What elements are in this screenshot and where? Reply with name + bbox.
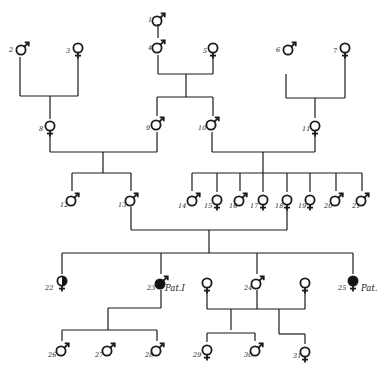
individual-number-label: 22 xyxy=(44,284,53,292)
male-symbol-icon-27 xyxy=(102,343,114,355)
male-symbol-icon-4 xyxy=(152,40,164,52)
individual-number-label: 29 xyxy=(192,351,201,359)
individual-number-label: 30 xyxy=(244,351,252,359)
male-symbol-icon-24 xyxy=(251,276,263,288)
individual-number-label: 25 xyxy=(337,284,346,292)
individual-number-label: 2 xyxy=(8,46,13,54)
pedigree-labels: 1234567891011121314151617181920212223242… xyxy=(8,16,360,360)
individual-number-label: 12 xyxy=(60,201,68,209)
female-symbol-icon-8 xyxy=(45,121,54,136)
individual-number-label: 24 xyxy=(243,284,252,292)
individual-number-label: 26 xyxy=(47,351,56,359)
individual-number-label: 9 xyxy=(146,124,150,132)
individual-number-label: 11 xyxy=(302,125,310,133)
individual-number-label: 27 xyxy=(94,351,104,359)
male-symbol-icon-26 xyxy=(56,343,68,355)
individual-number-label: 7 xyxy=(333,47,338,55)
female-symbol-icon-22 xyxy=(57,276,66,291)
female-symbol-icon xyxy=(202,278,211,293)
individual-number-label: 13 xyxy=(118,201,126,209)
pedigree-diagram: 1234567891011121314151617181920212223242… xyxy=(0,0,384,372)
individual-number-label: 28 xyxy=(144,351,153,359)
male-symbol-icon-6 xyxy=(283,42,295,54)
female-symbol-icon-5 xyxy=(208,43,217,58)
male-symbol-icon-2 xyxy=(16,42,28,54)
male-symbol-icon-14 xyxy=(187,193,199,205)
patient-annotation: Pat.I xyxy=(164,283,186,293)
female-symbol-icon-15 xyxy=(212,195,221,210)
individual-number-label: 6 xyxy=(276,46,280,54)
female-symbol-icon-18 xyxy=(282,195,291,210)
female-symbol-icon xyxy=(300,278,309,293)
female-symbol-icon-17 xyxy=(258,195,267,210)
individual-number-label: 16 xyxy=(229,202,237,210)
male-symbol-icon-1 xyxy=(152,13,164,25)
female-symbol-icon-3 xyxy=(73,43,82,58)
individual-number-label: 5 xyxy=(203,47,207,55)
male-symbol-icon-10 xyxy=(206,117,218,129)
individual-number-label: 17 xyxy=(250,202,259,210)
individual-number-label: 19 xyxy=(298,202,306,210)
male-symbol-icon-9 xyxy=(151,117,163,129)
individual-number-label: 10 xyxy=(198,124,206,132)
patient-annotation: Pat. xyxy=(360,283,378,293)
individual-number-label: 20 xyxy=(323,202,332,210)
female-symbol-icon-31 xyxy=(300,347,309,362)
individual-number-label: 14 xyxy=(178,202,186,210)
individual-number-label: 8 xyxy=(39,125,43,133)
individual-number-label: 18 xyxy=(275,202,283,210)
individual-number-label: 21 xyxy=(351,202,360,210)
individual-number-label: 1 xyxy=(148,16,152,24)
female-symbol-icon-29 xyxy=(202,345,211,360)
female-symbol-icon-25 xyxy=(348,276,357,291)
pedigree-lines xyxy=(20,24,362,344)
male-symbol-icon-13 xyxy=(125,193,137,205)
female-symbol-icon-11 xyxy=(310,121,319,136)
individual-number-label: 15 xyxy=(204,202,212,210)
individual-number-label: 3 xyxy=(66,47,70,55)
individual-number-label: 31 xyxy=(293,352,301,360)
female-symbol-icon-19 xyxy=(305,195,314,210)
individual-number-label: 23 xyxy=(146,284,155,292)
individual-number-label: 4 xyxy=(147,44,152,52)
female-symbol-icon-7 xyxy=(340,43,349,58)
